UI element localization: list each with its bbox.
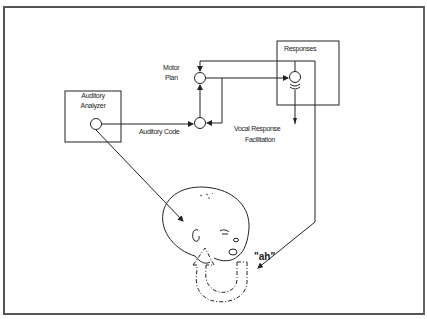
infant-head-illustration bbox=[163, 187, 249, 263]
auditory-analyzer-line2: Analyzer bbox=[68, 101, 118, 111]
utterance-label: "ah" bbox=[254, 252, 275, 262]
diagram-canvas bbox=[0, 0, 427, 319]
mouth-icon bbox=[229, 249, 237, 255]
responses-node-wave-icon bbox=[290, 84, 300, 89]
auditory-analyzer-node bbox=[91, 119, 102, 130]
responses-node bbox=[290, 72, 301, 83]
vocal-response-label: Vocal Response bbox=[234, 124, 280, 134]
responses-label: Responses bbox=[284, 44, 316, 54]
facilitation-label: Facilitation bbox=[245, 135, 275, 145]
motor-plan-label-line1: Motor bbox=[163, 63, 179, 73]
auditory-code-node bbox=[195, 118, 206, 129]
auditory-analyzer-label: Auditory Analyzer bbox=[68, 91, 118, 111]
auditory-code-label: Auditory Code bbox=[139, 127, 179, 137]
motor-plan-label-line2: Plan bbox=[165, 73, 178, 83]
auditory-analyzer-line1: Auditory bbox=[68, 91, 118, 101]
motor-plan-node bbox=[195, 73, 206, 84]
ear-icon bbox=[193, 230, 200, 242]
feedback-loop-dashed-arrow bbox=[193, 248, 247, 302]
